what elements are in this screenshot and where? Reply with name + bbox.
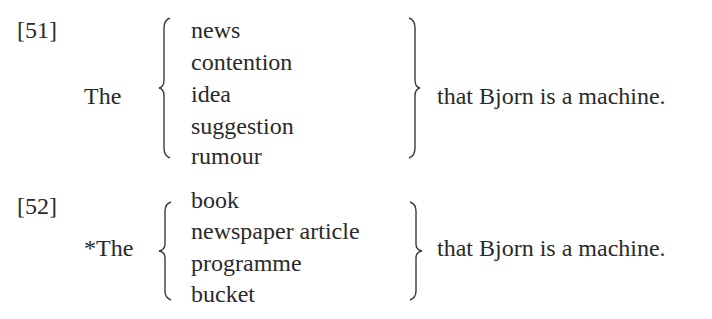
left-brace [158,200,174,302]
determiner: *The [84,232,133,264]
determiner: The [84,80,121,112]
noun-item: newspaper article [191,215,360,247]
noun-item: news [191,14,240,46]
example-number: [51] [17,14,57,46]
right-brace [407,200,423,302]
complement-clause: that Bjorn is a machine. [437,232,666,264]
noun-item: contention [191,46,292,78]
noun-item: programme [191,247,302,279]
noun-item: rumour [191,140,262,172]
noun-item: suggestion [191,110,294,142]
noun-item: book [191,184,239,216]
right-brace [405,16,421,160]
noun-item: bucket [191,278,255,310]
example-number: [52] [17,190,57,222]
left-brace [158,16,174,160]
complement-clause: that Bjorn is a machine. [437,80,666,112]
noun-item: idea [191,78,231,110]
